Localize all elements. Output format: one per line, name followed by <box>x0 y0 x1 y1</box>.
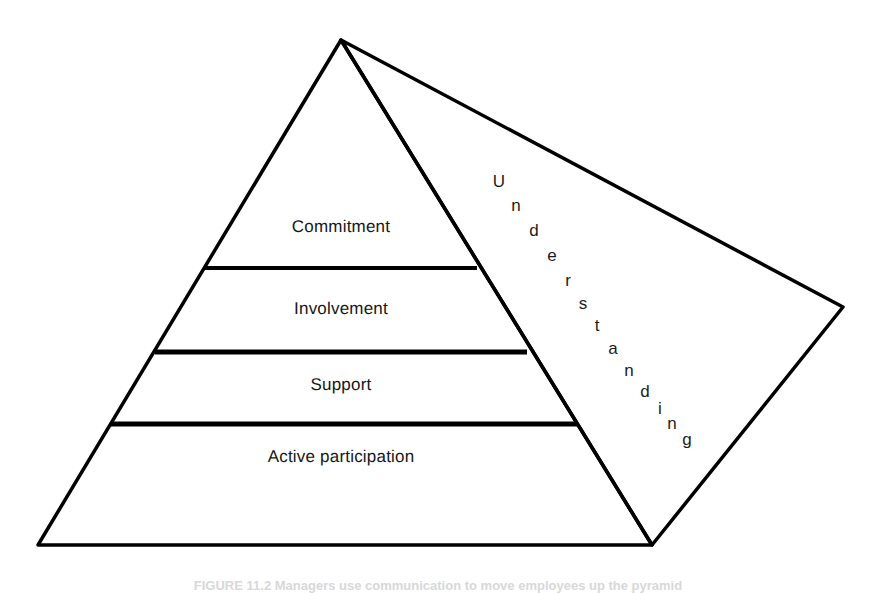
pyramid-front-face <box>38 40 652 545</box>
side-face-letter: n <box>624 361 633 381</box>
side-face-letter: U <box>493 172 505 192</box>
tier-label-support: Support <box>311 375 372 395</box>
side-face-letter: n <box>511 196 520 216</box>
side-face-letter: i <box>658 399 662 419</box>
side-face-letter: t <box>595 316 600 336</box>
tier-label-active-participation: Active participation <box>268 447 415 467</box>
figure-caption: FIGURE 11.2 Managers use communication t… <box>0 578 876 593</box>
side-face-letter: g <box>682 430 691 450</box>
side-face-letter: e <box>547 246 556 266</box>
side-face-letter: r <box>565 271 571 291</box>
side-face-letter: d <box>529 221 538 241</box>
side-face-letter: s <box>579 294 588 314</box>
side-face-letter: a <box>608 339 617 359</box>
tier-label-commitment: Commitment <box>292 217 390 237</box>
side-face-letter: n <box>667 414 676 434</box>
tier-label-involvement: Involvement <box>294 299 388 319</box>
pyramid-right-face <box>341 40 843 545</box>
side-face-letter: d <box>640 382 649 402</box>
